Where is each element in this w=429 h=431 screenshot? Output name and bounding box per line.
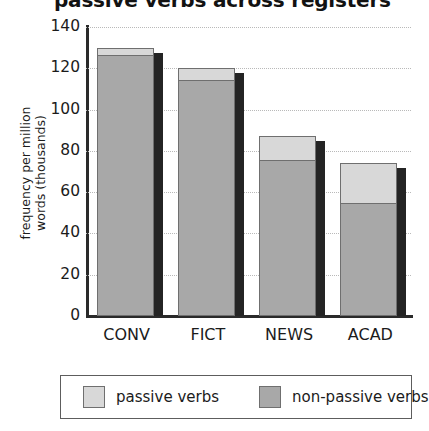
y-axis-tick-label: 100 [36,102,80,118]
bar-shadow-acad [397,168,406,316]
bar-segment-non-passive-acad[interactable] [341,203,396,315]
legend-label-non-passive-verbs: non-passive verbs [292,388,429,406]
legend-swatch-passive-verbs [83,386,105,408]
bar-segment-non-passive-news[interactable] [260,160,315,315]
plot-area [86,27,411,316]
bar-fict[interactable] [178,68,235,316]
bar-segment-non-passive-conv[interactable] [98,55,153,315]
x-axis-tick-label-fict: FICT [167,324,248,346]
bar-acad[interactable] [340,163,397,316]
y-axis-tick-label: 120 [36,60,80,76]
bar-news[interactable] [259,136,316,316]
bar-shadow-news [316,141,325,316]
bar-shadow-fict [235,73,244,316]
bar-group-fict[interactable] [178,63,244,316]
x-axis-tick-label-acad: ACAD [330,324,411,346]
legend-label-passive-verbs: passive verbs [116,388,219,406]
y-axis-tick-label: 20 [36,267,80,283]
bar-segment-passive-news[interactable] [260,137,315,160]
x-axis-tick-labels: CONVFICTNEWSACAD [86,324,413,350]
y-axis-tick-label: 40 [36,225,80,241]
chart-title: passive verbs across registers [54,0,414,13]
bar-conv[interactable] [97,48,154,316]
y-axis-tick-labels: 140120100806040200 [30,27,80,316]
x-axis-tick-label-conv: CONV [86,324,167,346]
legend-item-passive-verbs: passive verbs [83,376,219,418]
y-axis-tick-label: 0 [36,308,80,324]
gridline [86,27,411,28]
y-axis-tick-label: 80 [36,143,80,159]
legend-swatch-non-passive-verbs [259,386,281,408]
chart-legend: passive verbs non-passive verbs [60,375,412,419]
bar-shadow-conv [154,53,163,316]
x-axis-tick-label-news: NEWS [249,324,330,346]
y-axis-tick-label: 60 [36,184,80,200]
bar-group-news[interactable] [259,131,325,316]
bar-segment-non-passive-fict[interactable] [179,80,234,315]
bar-group-acad[interactable] [340,158,406,316]
y-axis-tick-label: 140 [36,19,80,35]
bar-group-conv[interactable] [97,43,163,316]
bar-segment-passive-fict[interactable] [179,69,234,79]
legend-item-non-passive-verbs: non-passive verbs [259,376,429,418]
bar-segment-passive-acad[interactable] [341,164,396,203]
